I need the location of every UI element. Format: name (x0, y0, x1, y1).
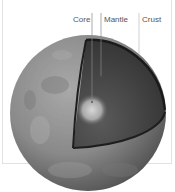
label-mantle: Mantle (104, 15, 128, 25)
label-core: Core (73, 15, 90, 25)
label-crust: Crust (142, 15, 161, 25)
sphere-cutaway-illustration (0, 0, 175, 192)
